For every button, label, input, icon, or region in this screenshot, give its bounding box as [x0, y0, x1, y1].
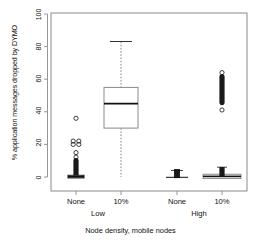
outlier-cluster: [73, 158, 78, 177]
boxplot-figure: % application messages dropped by DYMO 1…: [0, 0, 261, 242]
y-axis: [44, 14, 48, 177]
outlier-cluster-high: [219, 71, 224, 113]
plot-frame: [51, 13, 247, 191]
box-none-low: [68, 116, 84, 178]
x-tick-label-none-high: None: [157, 197, 197, 206]
box-none-high: [166, 170, 188, 178]
outliers: [71, 116, 81, 159]
x-group-label-low: Low: [78, 209, 118, 218]
x-tick-label-tenpct-low: 10%: [101, 197, 141, 206]
x-tick-label-none-low: None: [56, 197, 96, 206]
x-group-label-high: High: [179, 209, 219, 218]
box-tenpct-high: [203, 71, 241, 179]
x-axis-ticks: [76, 191, 222, 195]
x-axis-label: Node density, mobile nodes: [0, 226, 261, 235]
box-tenpct-low: [104, 42, 138, 178]
x-tick-label-tenpct-high: 10%: [202, 197, 242, 206]
